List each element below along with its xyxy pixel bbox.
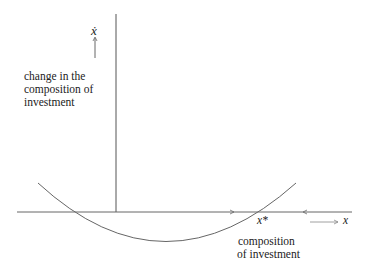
- y-axis-label-line2: composition of: [24, 83, 93, 96]
- x-axis-symbol: x: [343, 214, 348, 227]
- phase-diagram: [0, 0, 370, 273]
- y-axis-label-line3: investment: [24, 96, 74, 109]
- y-axis-label-line1: change in the: [24, 70, 85, 83]
- x-axis-label-line1: composition: [238, 235, 295, 248]
- y-axis-symbol: ẋ: [91, 24, 97, 37]
- x-axis-label-line2: of investment: [237, 248, 300, 261]
- equilibrium-label: x*: [257, 214, 268, 227]
